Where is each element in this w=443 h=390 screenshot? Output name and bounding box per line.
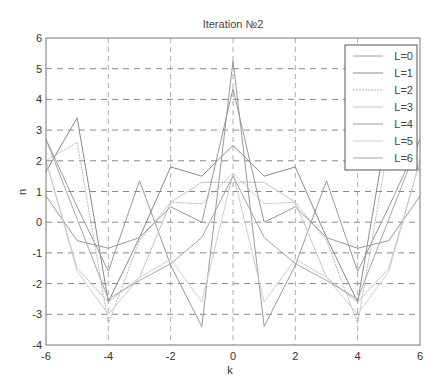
y-tick-label: 6 <box>36 32 42 44</box>
line-chart: -6-4-20246 -4-3-2-10123456 Iteration №2 … <box>0 0 443 390</box>
legend-label: L=2 <box>394 84 413 96</box>
y-tick-label: -3 <box>32 308 42 320</box>
y-axis-ticks: -4-3-2-10123456 <box>32 32 42 351</box>
y-tick-label: -4 <box>32 339 42 351</box>
y-tick-label: 1 <box>36 186 42 198</box>
x-tick-label: -2 <box>166 350 176 362</box>
x-tick-label: 0 <box>230 350 236 362</box>
y-tick-label: 0 <box>36 216 42 228</box>
legend-label: L=6 <box>394 152 413 164</box>
legend-label: L=1 <box>394 67 413 79</box>
x-axis-label: k <box>227 364 233 376</box>
x-tick-label: -6 <box>41 350 51 362</box>
legend-label: L=3 <box>394 101 413 113</box>
y-tick-label: -2 <box>32 278 42 290</box>
legend-label: L=5 <box>394 135 413 147</box>
legend: L=0L=1L=2L=3L=4L=5L=6 <box>345 45 417 170</box>
y-tick-label: 3 <box>36 124 42 136</box>
y-tick-label: 4 <box>36 93 42 105</box>
x-tick-label: 4 <box>355 350 361 362</box>
legend-label: L=4 <box>394 118 413 130</box>
x-axis-ticks: -6-4-20246 <box>41 350 423 362</box>
y-axis-label: n <box>16 189 28 195</box>
y-tick-label: 5 <box>36 63 42 75</box>
x-tick-label: -4 <box>103 350 113 362</box>
chart-title: Iteration №2 <box>203 18 264 30</box>
x-tick-label: 6 <box>417 350 423 362</box>
y-tick-label: 2 <box>36 155 42 167</box>
legend-label: L=0 <box>394 50 413 62</box>
x-tick-label: 2 <box>292 350 298 362</box>
y-tick-label: -1 <box>32 247 42 259</box>
